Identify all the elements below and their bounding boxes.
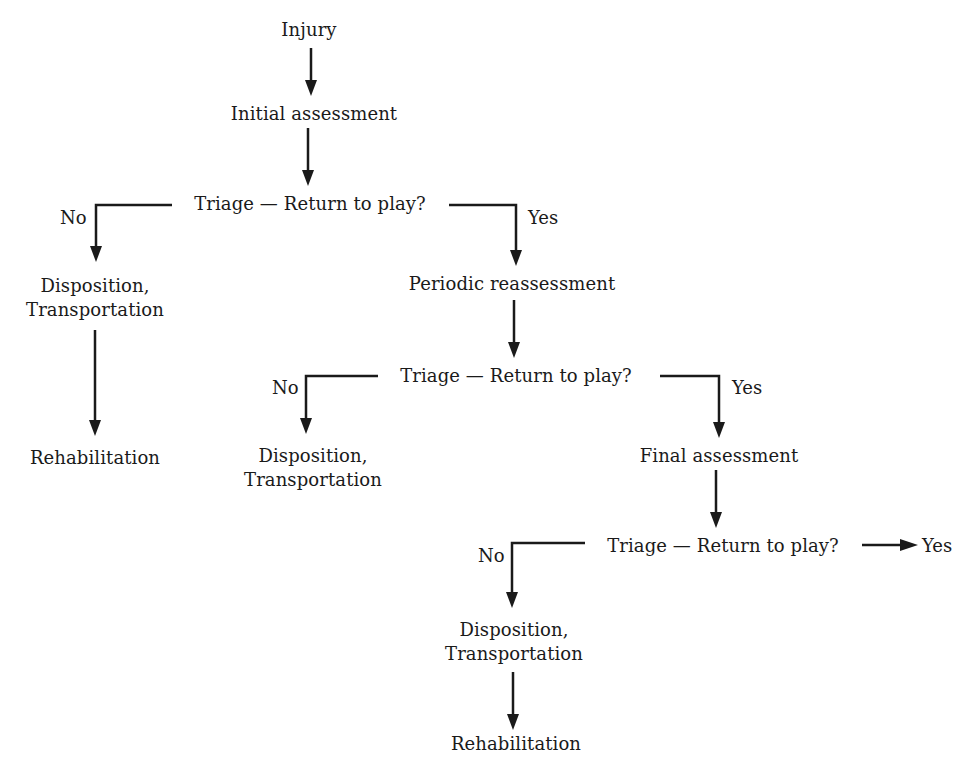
node-final-assessment: Final assessment xyxy=(640,444,799,468)
arrowhead-icon xyxy=(900,539,918,551)
node-disposition-2-line1: Disposition, xyxy=(244,444,382,468)
arrowhead-icon xyxy=(510,250,522,266)
injury-management-flowchart: Injury Initial assessment Triage — Retur… xyxy=(0,0,973,777)
arrowhead-icon xyxy=(305,80,317,96)
node-disposition-3-line1: Disposition, xyxy=(445,618,583,642)
node-rehabilitation-3: Rehabilitation xyxy=(451,732,581,756)
node-disposition-1-line2: Transportation xyxy=(26,298,164,322)
edge-label-yes-2: Yes xyxy=(732,377,762,399)
edge-label-no-2: No xyxy=(272,377,299,399)
arrowhead-icon xyxy=(713,422,725,438)
arrowhead-icon xyxy=(302,170,314,186)
arrowhead-icon xyxy=(90,246,102,262)
arrowhead-icon xyxy=(300,418,312,434)
arrow-triage2-yes xyxy=(660,376,719,424)
arrowhead-icon xyxy=(506,592,518,608)
arrowhead-icon xyxy=(89,420,101,436)
arrow-triage1-no xyxy=(96,205,172,248)
arrow-triage2-no xyxy=(306,376,378,420)
node-disposition-2: Disposition, Transportation xyxy=(244,444,382,492)
edge-label-yes-1: Yes xyxy=(528,207,558,229)
node-disposition-3-line2: Transportation xyxy=(445,642,583,666)
edge-label-yes-3: Yes xyxy=(922,535,952,557)
node-rehabilitation-1: Rehabilitation xyxy=(30,446,160,470)
node-periodic-reassessment: Periodic reassessment xyxy=(409,272,615,296)
node-disposition-1: Disposition, Transportation xyxy=(26,274,164,322)
node-triage-1: Triage — Return to play? xyxy=(194,192,426,216)
arrow-triage1-yes xyxy=(449,205,516,252)
node-disposition-2-line2: Transportation xyxy=(244,468,382,492)
node-disposition-1-line1: Disposition, xyxy=(26,274,164,298)
node-disposition-3: Disposition, Transportation xyxy=(445,618,583,666)
arrowhead-icon xyxy=(508,342,520,358)
node-triage-3: Triage — Return to play? xyxy=(607,534,839,558)
node-initial-assessment: Initial assessment xyxy=(231,102,397,126)
arrowhead-icon xyxy=(710,512,722,528)
arrow-triage3-no xyxy=(512,543,585,594)
edge-label-no-1: No xyxy=(60,207,87,229)
edge-label-no-3: No xyxy=(478,545,505,567)
arrowhead-icon xyxy=(507,714,519,730)
node-injury: Injury xyxy=(281,18,336,42)
node-triage-2: Triage — Return to play? xyxy=(400,364,632,388)
